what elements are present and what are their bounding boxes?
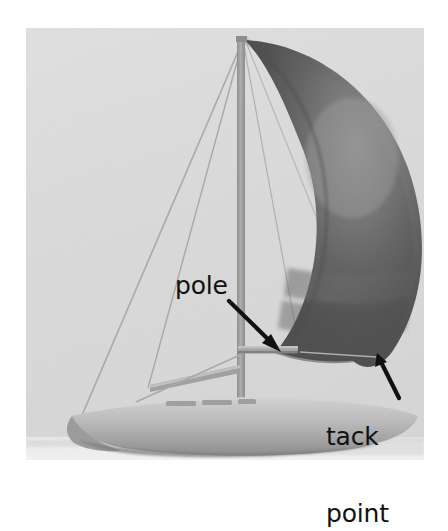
tack-point-label-line1: tack (326, 424, 389, 450)
pole-label: pole (175, 273, 228, 299)
tack-point-label-line2: point (326, 501, 389, 527)
tack-point-label: tack point (326, 373, 389, 531)
